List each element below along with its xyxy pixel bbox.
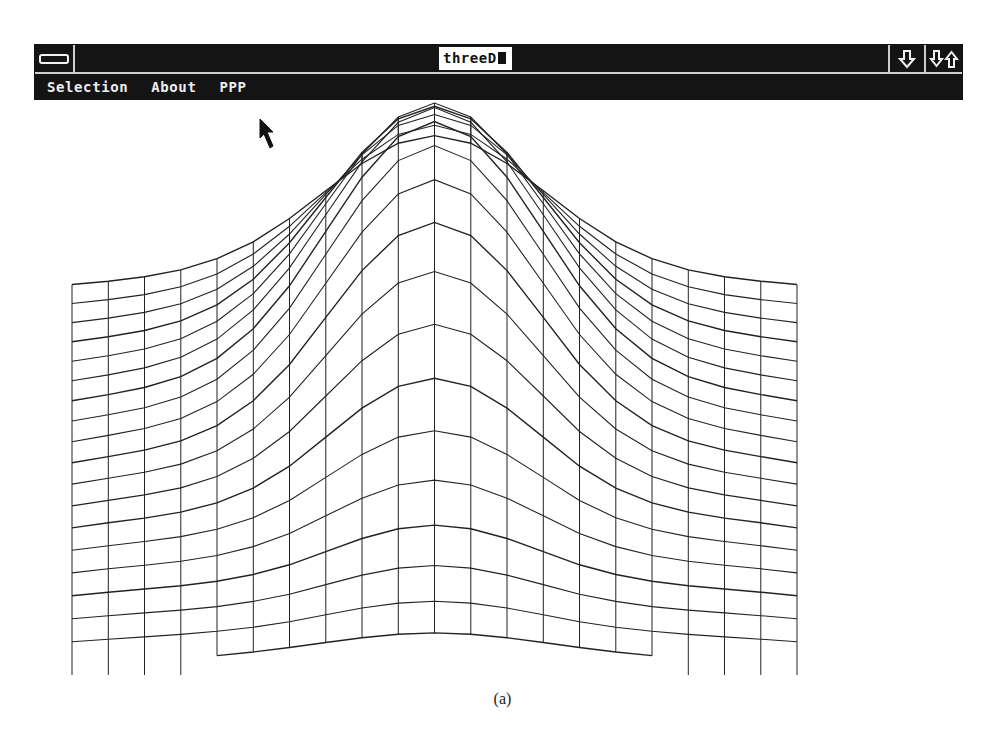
system-menu-button[interactable] <box>35 45 75 72</box>
menu-selection[interactable]: Selection <box>35 79 139 95</box>
minimize-button[interactable] <box>888 45 924 72</box>
minimize-arrow-icon <box>898 49 916 69</box>
title-bar[interactable]: threeD <box>35 45 962 74</box>
mesh-row-line <box>217 633 652 656</box>
figure-caption: (a) <box>0 690 1005 708</box>
window-title: threeD <box>439 47 512 70</box>
menu-about[interactable]: About <box>139 79 207 95</box>
window-frame: threeD Selection About PPP <box>34 44 963 100</box>
menu-ppp[interactable]: PPP <box>207 79 257 95</box>
wireframe-surface-plot[interactable] <box>0 100 1005 690</box>
text-cursor-block <box>498 52 506 64</box>
menu-bar: Selection About PPP <box>35 74 962 99</box>
restore-arrows-icon <box>929 49 959 69</box>
system-menu-icon <box>39 54 69 64</box>
window-title-text: threeD <box>443 50 497 66</box>
maximize-button[interactable] <box>924 45 962 72</box>
